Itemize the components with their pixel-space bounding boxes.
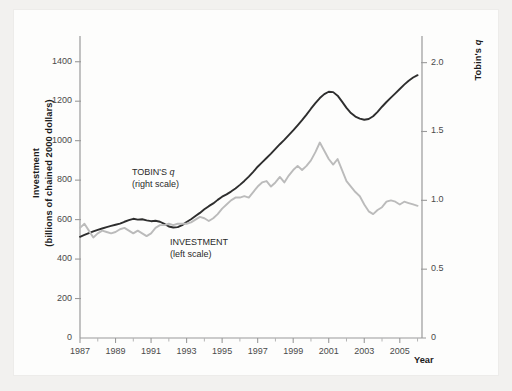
series-line-investment [80, 75, 418, 237]
chart-plot-area [14, 10, 498, 375]
figure-page: Investment (billions of chained 2000 dol… [0, 0, 512, 391]
figure-card: Investment (billions of chained 2000 dol… [14, 10, 498, 375]
series-line-tobins-q [80, 143, 418, 238]
